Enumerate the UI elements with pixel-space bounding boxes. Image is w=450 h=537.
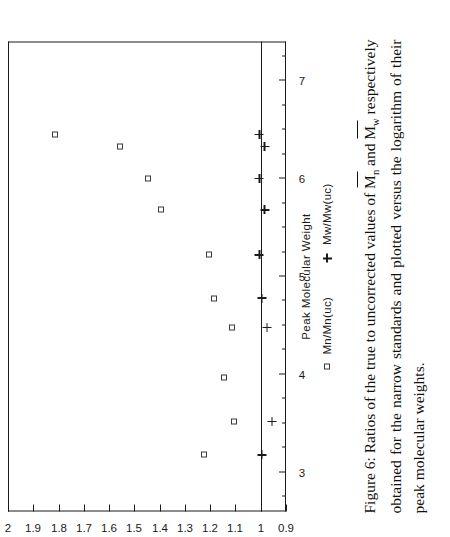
y-tick-label: 1.9 — [25, 521, 41, 533]
x-tick — [279, 373, 286, 374]
y-tick — [261, 504, 262, 511]
data-point-plus — [257, 450, 266, 459]
y-tick-label: 1.7 — [76, 521, 92, 533]
y-tick — [59, 504, 60, 511]
data-point-plus — [255, 174, 264, 183]
data-point-square — [117, 143, 123, 149]
x-tick-minor — [282, 55, 286, 56]
data-point-plus — [257, 293, 266, 302]
y-tick — [109, 504, 110, 511]
data-point-plus — [268, 416, 277, 425]
y-tick-label: 1.3 — [177, 521, 193, 533]
y-tick-label: 1 — [258, 521, 264, 533]
data-point-plus — [255, 250, 264, 259]
y-tick — [185, 504, 186, 511]
m-sub-w-subscript: w — [370, 118, 381, 126]
m-sub-w-base: M — [361, 125, 378, 139]
scatter-plot: 0.911.11.21.31.41.51.61.71.81.92 34567 — [8, 41, 286, 511]
data-point-square — [145, 175, 151, 181]
square-marker-icon — [324, 363, 330, 369]
x-tick — [279, 79, 286, 80]
x-tick-minor — [282, 348, 286, 349]
y-tick-label: 0.9 — [278, 521, 294, 533]
plot-frame: 0.911.11.21.31.41.51.61.71.81.92 34567 — [8, 41, 286, 511]
y-tick-label: 1.8 — [51, 521, 67, 533]
y-tick — [8, 504, 9, 511]
figure-page: 0.911.11.21.31.41.51.61.71.81.92 34567 P… — [0, 0, 450, 537]
y-tick-label: 2 — [5, 521, 11, 533]
y-tick — [160, 504, 161, 511]
y-tick — [286, 504, 287, 511]
x-tick — [279, 471, 286, 472]
y-tick — [210, 504, 211, 511]
reference-line-y1 — [261, 41, 262, 511]
y-tick-label: 1.5 — [126, 521, 142, 533]
data-point-square — [229, 324, 235, 330]
x-tick-minor — [282, 495, 286, 496]
data-point-square — [52, 131, 58, 137]
x-tick-minor — [282, 202, 286, 203]
x-tick-minor — [282, 128, 286, 129]
legend-label-mn: Mn/Mn(uc) — [321, 296, 333, 354]
plus-marker-icon — [323, 253, 332, 262]
rotated-figure-stage: 0.911.11.21.31.41.51.61.71.81.92 34567 P… — [0, 0, 450, 537]
figure-caption-prefix: Figure 6: — [361, 457, 378, 513]
data-point-square — [206, 251, 212, 257]
y-tick — [33, 504, 34, 511]
y-tick-label: 1.6 — [101, 521, 117, 533]
figure-caption-mid: and — [361, 139, 378, 169]
x-tick-minor — [282, 324, 286, 325]
y-tick-label: 1.1 — [227, 521, 243, 533]
data-point-square — [201, 451, 207, 457]
x-tick-minor — [282, 299, 286, 300]
data-point-plus — [263, 322, 272, 331]
x-tick — [279, 275, 286, 276]
y-tick — [235, 504, 236, 511]
x-tick-minor — [282, 153, 286, 154]
data-point-plus — [260, 205, 269, 214]
y-tick — [134, 504, 135, 511]
y-axis-line — [8, 510, 286, 511]
y-tick — [84, 504, 85, 511]
x-tick — [279, 177, 286, 178]
x-tick-minor — [282, 104, 286, 105]
y-tick-label: 1.4 — [152, 521, 168, 533]
legend-label-mw: Mw/Mw(uc) — [321, 183, 333, 244]
x-tick-minor — [282, 397, 286, 398]
figure-caption: Figure 6: Ratios of the true to uncorrec… — [358, 39, 430, 513]
x-tick-minor — [282, 422, 286, 423]
x-tick-minor — [282, 226, 286, 227]
plot-right-border — [8, 41, 286, 42]
data-point-plus — [260, 141, 269, 150]
plot-top-border — [8, 41, 9, 511]
m-sub-w-symbol: Mw — [358, 118, 384, 139]
data-point-plus — [255, 130, 264, 139]
data-point-square — [231, 418, 237, 424]
x-axis-title: Peak Molecular Weight — [300, 41, 312, 511]
m-sub-n-base: M — [361, 175, 378, 189]
figure-caption-part1: Ratios of the true to uncorrected values… — [361, 188, 378, 456]
data-point-square — [221, 374, 227, 380]
x-tick-minor — [282, 446, 286, 447]
m-sub-n-subscript: n — [370, 169, 381, 174]
legend-item-mw: Mw/Mw(uc) — [321, 183, 333, 262]
y-tick-label: 1.2 — [202, 521, 218, 533]
axis-title-and-legend: Peak Molecular Weight Mn/Mn(uc) Mw/Mw(uc… — [300, 41, 333, 511]
x-tick-minor — [282, 251, 286, 252]
data-point-square — [211, 295, 217, 301]
legend-item-mn: Mn/Mn(uc) — [321, 296, 333, 369]
chart-legend: Mn/Mn(uc) Mw/Mw(uc) — [321, 41, 333, 511]
m-sub-n-symbol: Mn — [358, 169, 384, 188]
data-point-square — [158, 206, 164, 212]
